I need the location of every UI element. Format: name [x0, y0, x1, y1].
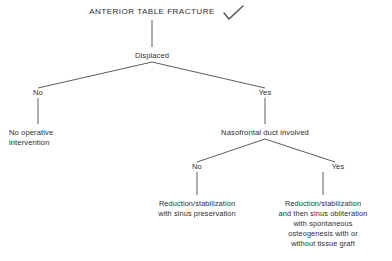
edge-nasofrontal-to-no: [197, 139, 265, 162]
node-outcome-right-line1: Reduction/stabilization: [285, 199, 361, 208]
node-root-label: ANTERIOR TABLE FRACTURE: [89, 7, 215, 16]
node-outcome-right-line5: without tissue graft: [290, 239, 355, 248]
node-displaced-yes-label: Yes: [259, 88, 272, 97]
node-nasofrontal-label: Nasofrontal duct involved: [221, 128, 309, 137]
node-outcome-right-line4: osteogenesis with or: [288, 229, 358, 238]
node-nasofrontal-yes-label: Yes: [332, 162, 345, 171]
edge-displaced-to-yes: [152, 62, 265, 88]
check-mark-icon: [224, 6, 243, 19]
node-outcome-right-line2: and then sinus obliteration: [279, 209, 368, 218]
flowchart-canvas: ANTERIOR TABLE FRACTURE Displaced No Yes…: [0, 0, 392, 261]
node-displaced-label: Displaced: [135, 51, 169, 60]
edge-displaced-to-no: [38, 62, 152, 88]
flowchart-diagram: ANTERIOR TABLE FRACTURE Displaced No Yes…: [0, 0, 392, 261]
node-outcome-left-line2: with sinus preservation: [157, 209, 235, 218]
edge-group: [38, 20, 335, 195]
node-no-operative-line1: No operative: [9, 128, 53, 137]
node-displaced-no-label: No: [33, 88, 43, 97]
node-outcome-left-line1: Reduction/stabilization: [159, 199, 235, 208]
node-outcome-right-line3: with spontaneous: [292, 219, 352, 228]
node-nasofrontal-no-label: No: [192, 162, 202, 171]
edge-nasofrontal-to-yes: [265, 139, 335, 162]
node-no-operative-line2: intervention: [9, 138, 49, 147]
